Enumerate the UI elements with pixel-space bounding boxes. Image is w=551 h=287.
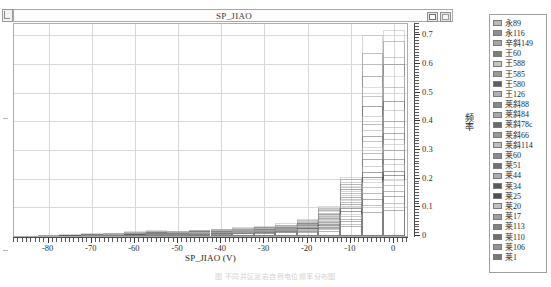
y-tick-minor	[415, 95, 419, 96]
legend-item[interactable]: 莱斜114	[493, 140, 544, 150]
x-tick-minor	[108, 238, 109, 242]
x-tick-label: -10	[335, 243, 365, 253]
y-tick-label: 0.4	[422, 115, 433, 125]
x-tick-minor	[143, 238, 144, 242]
legend-item[interactable]: 莱51	[493, 161, 544, 171]
y-tick-minor	[415, 195, 419, 196]
legend-label: 辛斜149	[505, 39, 533, 48]
x-tick-minor	[251, 238, 252, 242]
legend-item[interactable]: 永89	[493, 18, 544, 28]
legend-color-swatch	[493, 122, 502, 128]
restore-button[interactable]	[427, 12, 438, 22]
legend-item[interactable]: 莱113	[493, 222, 544, 232]
legend-item[interactable]: 莱斜88	[493, 100, 544, 110]
y-tick-minor	[415, 192, 419, 193]
legend-item[interactable]: 永116	[493, 28, 544, 38]
x-tick-minor	[194, 238, 195, 242]
legend-item[interactable]: 莱斜78c	[493, 120, 544, 130]
x-tick-minor	[121, 238, 122, 242]
legend-item[interactable]: 辛斜149	[493, 38, 544, 48]
x-tick-minor	[130, 238, 131, 242]
x-tick-minor	[268, 238, 269, 242]
y-tick-label: 0	[422, 230, 426, 240]
legend-item[interactable]: 莱34	[493, 181, 544, 191]
legend-item[interactable]: 莱60	[493, 150, 544, 160]
y-tick-label: 0.6	[422, 58, 433, 68]
left-margin-tick-upper	[3, 118, 8, 119]
x-tick-minor	[125, 238, 126, 242]
y-tick-minor	[415, 43, 419, 44]
legend-item[interactable]: 莱110	[493, 232, 544, 242]
y-tick-minor	[415, 32, 419, 33]
x-tick-minor	[117, 238, 118, 242]
legend-item[interactable]: 莱106	[493, 242, 544, 252]
y-tick-minor	[415, 152, 419, 153]
legend-item[interactable]: 莱斜66	[493, 130, 544, 140]
y-tick-minor	[415, 100, 419, 101]
y-tick-minor	[415, 86, 419, 87]
legend[interactable]: 永89永116辛斜149王60王588王585王580王126莱斜88莱斜84莱…	[489, 14, 547, 273]
y-axis	[414, 23, 420, 237]
legend-item[interactable]: 王585	[493, 69, 544, 79]
x-tick-minor	[328, 238, 329, 242]
y-tick-minor	[415, 140, 419, 141]
legend-label: 莱1	[505, 253, 517, 262]
x-tick-minor	[246, 238, 247, 242]
x-tick-minor	[52, 238, 53, 242]
x-tick-label: -40	[205, 243, 235, 253]
histogram-bar	[383, 210, 405, 236]
x-tick-minor	[39, 238, 40, 242]
histogram-bars	[14, 24, 407, 236]
legend-color-swatch	[493, 173, 502, 179]
x-tick-label: -80	[33, 243, 63, 253]
legend-item[interactable]: 王588	[493, 59, 544, 69]
legend-color-swatch	[493, 40, 502, 46]
y-tick-minor	[415, 83, 419, 84]
legend-item[interactable]: 莱17	[493, 212, 544, 222]
x-tick-minor	[406, 238, 407, 242]
chart-application-window: SP_JIAO -80-70-60-50-40-30-20-100 SP_JIA…	[0, 0, 551, 287]
legend-item[interactable]: 莱44	[493, 171, 544, 181]
window-resize-corner-icon[interactable]	[2, 9, 13, 22]
x-tick-minor	[242, 238, 243, 242]
y-tick-label: 0.2	[422, 173, 433, 183]
x-tick-minor	[367, 238, 368, 242]
legend-label: 莱51	[505, 161, 521, 170]
x-tick-minor	[69, 238, 70, 242]
y-tick-minor	[415, 69, 419, 70]
x-tick-minor	[112, 238, 113, 242]
legend-color-swatch	[493, 112, 502, 118]
histogram-bar	[340, 226, 362, 236]
plot-area[interactable]	[13, 23, 408, 237]
legend-item[interactable]: 王580	[493, 79, 544, 89]
y-tick-minor	[415, 201, 419, 202]
y-tick-minor	[415, 126, 419, 127]
x-tick-minor	[371, 238, 372, 242]
close-button[interactable]	[440, 12, 451, 22]
legend-item[interactable]: 王126	[493, 89, 544, 99]
x-tick-minor	[272, 238, 273, 242]
legend-color-swatch	[493, 183, 502, 189]
y-tick-minor	[415, 40, 419, 41]
legend-item[interactable]: 莱20	[493, 201, 544, 211]
legend-color-swatch	[493, 254, 502, 260]
x-tick-minor	[311, 238, 312, 242]
y-tick-label: 0.7	[422, 29, 433, 39]
y-tick-minor	[415, 132, 419, 133]
legend-color-swatch	[493, 224, 502, 230]
x-tick-minor	[43, 238, 44, 242]
x-tick-minor	[324, 238, 325, 242]
legend-item[interactable]: 王60	[493, 49, 544, 59]
legend-item[interactable]: 莱25	[493, 191, 544, 201]
x-tick-minor	[164, 238, 165, 242]
y-tick-minor	[415, 169, 419, 170]
legend-color-swatch	[493, 71, 502, 77]
x-tick-minor	[259, 238, 260, 242]
legend-item[interactable]: 莱1	[493, 252, 544, 262]
x-tick-minor	[160, 238, 161, 242]
x-tick-label: -70	[76, 243, 106, 253]
legend-item[interactable]: 莱斜84	[493, 110, 544, 120]
x-tick-minor	[225, 238, 226, 242]
legend-label: 王585	[505, 70, 525, 79]
window-titlebar[interactable]: SP_JIAO	[13, 9, 453, 22]
